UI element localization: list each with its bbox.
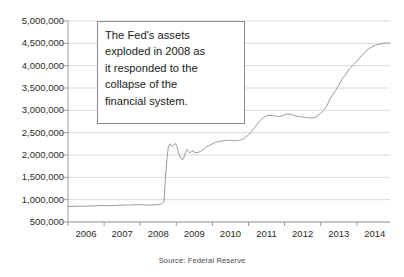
x-axis-tick-label: 2008 xyxy=(138,228,178,239)
source-note: Source: Federal Reserve xyxy=(0,256,404,265)
x-axis-tick-label: 2009 xyxy=(174,228,214,239)
x-axis-tick-label: 2007 xyxy=(102,228,142,239)
callout-line-5: financial system. xyxy=(105,93,238,109)
x-axis-tick-label: 2013 xyxy=(319,228,359,239)
x-axis-tick-label: 2014 xyxy=(355,228,395,239)
x-axis-tick-label: 2012 xyxy=(283,228,323,239)
x-axis-tick-label: 2006 xyxy=(66,228,106,239)
fed-assets-callout-box: The Fed's assets exploded in 2008 as it … xyxy=(97,21,245,124)
callout-line-2: exploded in 2008 as xyxy=(105,43,238,59)
callout-line-3: it responded to the xyxy=(105,60,238,76)
x-axis-tick-label: 2011 xyxy=(247,228,287,239)
x-axis-tick-label: 2010 xyxy=(210,228,250,239)
callout-line-4: collapse of the xyxy=(105,76,238,92)
callout-line-1: The Fed's assets xyxy=(105,27,238,43)
fed-assets-chart: 5,000,0004,500,0004,000,0003,500,0003,00… xyxy=(0,0,404,277)
